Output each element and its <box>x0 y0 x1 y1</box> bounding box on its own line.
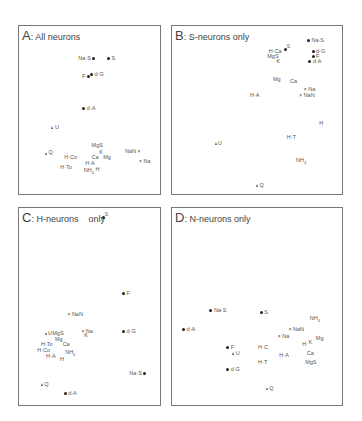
data-point: × NaN <box>299 92 314 98</box>
cross-marker-icon: × <box>288 327 291 332</box>
data-point: NaN × <box>125 148 140 154</box>
triangle-marker-icon <box>266 387 268 390</box>
triangle-marker-icon <box>41 383 43 386</box>
plot-area: Na·S SF d·G d·A U Q MgS K Ca MgH·Co H·AH… <box>25 40 154 188</box>
point-label: K <box>84 332 88 338</box>
point-label: Q <box>260 182 264 188</box>
data-point: d·A <box>182 326 195 332</box>
triangle-marker-icon <box>232 352 234 355</box>
filled-circle-marker-icon <box>122 292 125 295</box>
data-point: H·T <box>285 134 296 140</box>
point-label: d·G <box>231 366 240 372</box>
filled-circle-marker-icon <box>64 392 67 395</box>
point-label: H <box>319 120 323 126</box>
data-point: U <box>215 140 223 146</box>
point-label: NH4 <box>310 315 320 321</box>
triangle-marker-icon <box>256 184 258 187</box>
point-label: d·G <box>95 71 104 77</box>
filled-circle-marker-icon <box>92 57 95 60</box>
cross-marker-icon: × <box>299 93 302 98</box>
point-label: F <box>82 73 85 79</box>
point-label: Na·S <box>129 370 142 376</box>
point-label: Ca <box>63 341 70 347</box>
triangle-marker-icon <box>215 142 217 145</box>
plot-area: S F× NaN d·G UMgS × Na K Mg H·To Ca H·Co… <box>25 210 152 399</box>
data-point: d·A <box>82 105 95 111</box>
point-label: NH4 <box>296 157 306 163</box>
point-label: F <box>127 290 130 296</box>
filled-circle-marker-icon <box>107 57 110 60</box>
point-label: Q <box>48 149 52 155</box>
point-label: NaN <box>125 148 136 154</box>
data-point: × Na <box>304 86 315 92</box>
filled-circle-marker-icon <box>307 39 310 42</box>
data-point: × NaN <box>288 326 303 332</box>
point-label: S <box>287 43 290 49</box>
data-point: Mg <box>314 335 323 341</box>
point-label: Na <box>308 86 315 92</box>
point-label: d·A <box>87 105 96 111</box>
data-point: × Na <box>278 333 289 339</box>
data-point: H·A <box>248 92 259 98</box>
point-label: d·A <box>187 326 196 332</box>
data-point: S <box>102 211 108 220</box>
data-point: d·G <box>90 71 104 77</box>
data-point: MgS <box>90 142 103 148</box>
data-point: Q <box>256 182 264 188</box>
data-point: U <box>51 124 59 130</box>
data-point: Na·S <box>209 307 226 313</box>
panel-d: D: N-neurons only Na·S S NH4 d·A× NaN× N… <box>171 207 343 406</box>
point-label: H·T <box>287 134 296 140</box>
data-point: Q <box>266 385 274 391</box>
data-point: K <box>309 339 314 345</box>
data-point: S <box>284 43 290 52</box>
point-label: H·A <box>279 352 288 358</box>
data-point: d·A <box>64 390 77 396</box>
panel-b: B: S-neurons only Na·SSH·Ca d·GMgS F d·A… <box>171 25 343 195</box>
filled-circle-marker-icon <box>82 107 85 110</box>
point-label: U <box>218 140 222 146</box>
data-point: U <box>45 330 53 336</box>
filled-circle-marker-icon <box>143 372 146 375</box>
point-label: d·G <box>127 328 136 334</box>
point-label: S <box>264 309 268 315</box>
data-point: NH4 <box>82 167 94 176</box>
point-label: K <box>276 58 280 64</box>
cross-marker-icon: × <box>139 159 142 164</box>
data-point: H <box>94 166 100 172</box>
data-point: H <box>302 341 308 347</box>
cross-marker-icon: × <box>138 149 141 154</box>
point-label: H·Co <box>64 154 77 160</box>
data-point: K <box>276 58 281 64</box>
data-point: d·A <box>308 58 321 64</box>
point-label: d·A <box>313 58 322 64</box>
point-label: H <box>95 166 99 172</box>
point-label: H·A <box>250 92 259 98</box>
triangle-marker-icon <box>45 152 47 155</box>
data-point: d·G <box>122 328 136 334</box>
filled-circle-marker-icon <box>182 328 185 331</box>
point-label: H·C <box>258 344 268 350</box>
point-label: Q <box>269 385 273 391</box>
data-point: × Na <box>139 158 150 164</box>
data-point: Na·S <box>78 55 95 61</box>
point-label: Mg <box>273 76 281 82</box>
data-point: × NaN <box>67 311 82 317</box>
point-label: H <box>60 356 64 362</box>
data-point: Ca <box>61 341 70 347</box>
filled-circle-marker-icon <box>90 73 93 76</box>
plot-area: Na·S S NH4 d·A× NaN× Na MgK H F H·C U H·… <box>178 214 330 399</box>
filled-circle-marker-icon <box>260 311 263 314</box>
data-point: NH4 <box>64 349 76 358</box>
data-point: H·A <box>278 352 289 358</box>
triangle-marker-icon <box>45 332 47 335</box>
data-point: S <box>260 309 268 315</box>
plot-area: Na·SSH·Ca d·GMgS F d·AK Mg Ca× Na× NaN H… <box>178 34 332 190</box>
filled-circle-marker-icon <box>122 330 125 333</box>
data-point: U <box>232 350 240 356</box>
panel-c: C: H-neuronsonly S F× NaN d·G UMgS × Na … <box>18 207 161 406</box>
point-label: H·To <box>60 164 72 170</box>
data-point: H·C <box>257 344 268 350</box>
point-label: MgS <box>92 142 103 148</box>
point-label: H·A <box>46 353 55 359</box>
